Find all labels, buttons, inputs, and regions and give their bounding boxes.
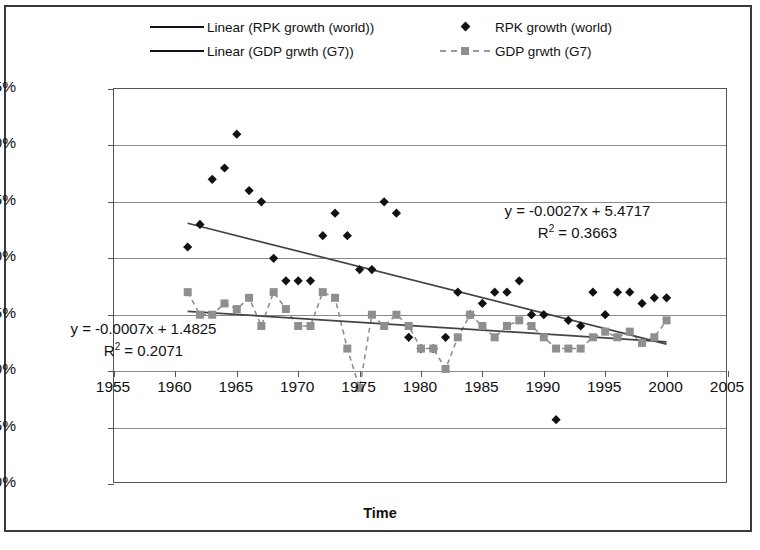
diamond-marker-icon bbox=[438, 20, 492, 34]
y-axis-tick-label: 5% bbox=[0, 304, 16, 322]
gdp-data-point bbox=[245, 294, 253, 302]
gdp-equation-text: y = -0.0007x + 1.4825 bbox=[36, 318, 251, 340]
gdp-data-point bbox=[552, 345, 560, 353]
gdp-data-point bbox=[221, 299, 229, 307]
gdp-data-point bbox=[184, 288, 192, 296]
rpk-data-point bbox=[453, 288, 462, 297]
gdp-data-point bbox=[405, 322, 413, 330]
y-axis-tick-label: 0% bbox=[0, 360, 16, 378]
x-axis-tick-label: 1985 bbox=[464, 378, 498, 396]
gdp-data-point bbox=[392, 311, 400, 319]
gdp-data-point bbox=[294, 322, 302, 330]
chart-legend: Linear (RPK growth (world)) RPK growth (… bbox=[150, 14, 630, 64]
rpk-data-point bbox=[490, 288, 499, 297]
rpk-r2-text: R2 = 0.3663 bbox=[470, 222, 685, 244]
gdp-data-point bbox=[343, 345, 351, 353]
rpk-data-point bbox=[318, 231, 327, 240]
gdp-data-point bbox=[270, 288, 278, 296]
gdp-data-point bbox=[282, 305, 290, 313]
rpk-data-point bbox=[392, 209, 401, 218]
y-axis-tick-label: 15% bbox=[0, 191, 16, 209]
legend-entry-linear-gdp: Linear (GDP grwth (G7)) bbox=[150, 40, 420, 62]
gdp-data-point bbox=[257, 322, 265, 330]
legend-row-2: Linear (GDP grwth (G7)) GDP grwth (G7) bbox=[150, 40, 630, 62]
gdp-data-point bbox=[491, 333, 499, 341]
rpk-data-point bbox=[404, 333, 413, 342]
gdp-data-point bbox=[601, 328, 609, 336]
gdp-data-point bbox=[331, 294, 339, 302]
rpk-data-point bbox=[478, 299, 487, 308]
gdp-data-point bbox=[613, 333, 621, 341]
legend-entry-gdp: GDP grwth (G7) bbox=[420, 40, 630, 62]
rpk-data-point bbox=[343, 231, 352, 240]
legend-label-linear-gdp: Linear (GDP grwth (G7)) bbox=[204, 44, 354, 59]
rpk-data-point bbox=[183, 242, 192, 251]
gdp-data-point bbox=[368, 311, 376, 319]
plot-area bbox=[113, 88, 727, 483]
gdp-data-point bbox=[515, 316, 523, 324]
rpk-data-point bbox=[601, 310, 610, 319]
rpk-data-point bbox=[269, 254, 278, 263]
rpk-data-point bbox=[650, 293, 659, 302]
rpk-data-point bbox=[588, 288, 597, 297]
gdp-data-point bbox=[663, 316, 671, 324]
legend-label-rpk: RPK growth (world) bbox=[492, 20, 612, 35]
x-axis-tick-label: 1980 bbox=[403, 378, 437, 396]
rpk-data-point bbox=[208, 175, 217, 184]
gdp-trendline-annotation: y = -0.0007x + 1.4825 R2 = 0.2071 bbox=[36, 318, 251, 362]
gdp-data-point bbox=[503, 322, 511, 330]
rpk-data-point bbox=[502, 288, 511, 297]
gdp-data-point bbox=[417, 345, 425, 353]
gdp-data-point bbox=[454, 333, 462, 341]
rpk-data-point bbox=[330, 209, 339, 218]
rpk-data-point bbox=[613, 288, 622, 297]
x-axis-tick-label: 1990 bbox=[526, 378, 560, 396]
gdp-data-point bbox=[466, 311, 474, 319]
rpk-data-point bbox=[625, 288, 634, 297]
rpk-data-point bbox=[637, 299, 646, 308]
rpk-data-point bbox=[367, 265, 376, 274]
rpk-data-point bbox=[662, 293, 671, 302]
rpk-data-point bbox=[257, 197, 266, 206]
legend-row-1: Linear (RPK growth (world)) RPK growth (… bbox=[150, 16, 630, 38]
x-axis-tick bbox=[728, 371, 729, 377]
gdp-data-point bbox=[540, 333, 548, 341]
y-axis-tick-label: 20% bbox=[0, 134, 16, 152]
gdp-data-point bbox=[442, 365, 450, 373]
x-axis-tick-label: 1955 bbox=[96, 378, 130, 396]
solid-line-icon bbox=[150, 20, 204, 34]
gdp-data-point bbox=[638, 339, 646, 347]
rpk-data-point bbox=[515, 276, 524, 285]
rpk-data-point bbox=[551, 415, 560, 424]
gdp-data-point bbox=[577, 345, 585, 353]
gdp-data-point bbox=[564, 345, 572, 353]
x-axis-tick-label: 1970 bbox=[280, 378, 314, 396]
rpk-equation-text: y = -0.0027x + 5.4717 bbox=[470, 200, 685, 222]
rpk-data-point bbox=[306, 276, 315, 285]
gdp-data-point bbox=[380, 322, 388, 330]
gdp-data-point bbox=[319, 288, 327, 296]
gdp-data-point bbox=[233, 305, 241, 313]
x-axis-tick-label: 2005 bbox=[710, 378, 744, 396]
gdp-data-point bbox=[528, 322, 536, 330]
y-axis-tick-label: 25% bbox=[0, 78, 16, 96]
y-axis-tick-label: -5% bbox=[0, 417, 16, 435]
rpk-data-point bbox=[244, 186, 253, 195]
gdp-data-point bbox=[429, 345, 437, 353]
x-axis-tick-label: 1960 bbox=[157, 378, 191, 396]
y-axis-tick-label: 10% bbox=[0, 247, 16, 265]
x-axis-tick-label: 1965 bbox=[219, 378, 253, 396]
gdp-data-point bbox=[306, 322, 314, 330]
gdp-data-point bbox=[626, 328, 634, 336]
chart-figure: Linear (RPK growth (world)) RPK growth (… bbox=[0, 0, 760, 550]
legend-entry-rpk: RPK growth (world) bbox=[420, 16, 630, 38]
rpk-data-point bbox=[564, 316, 573, 325]
rpk-data-point bbox=[441, 333, 450, 342]
x-axis-tick-label: 1995 bbox=[587, 378, 621, 396]
rpk-data-point bbox=[380, 197, 389, 206]
legend-entry-linear-rpk: Linear (RPK growth (world)) bbox=[150, 16, 420, 38]
gdp-data-point bbox=[650, 333, 658, 341]
rpk-data-point bbox=[232, 130, 241, 139]
gdp-r2-text: R2 = 0.2071 bbox=[36, 340, 251, 362]
rpk-data-point bbox=[220, 163, 229, 172]
